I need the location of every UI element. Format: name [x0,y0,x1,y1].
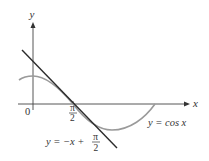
tangent-label: y = −x + π 2 [45,131,100,153]
pi-half-denominator: 2 [70,113,75,123]
origin-label: 0 [25,106,30,117]
cosine-label: y = cos x [147,117,187,128]
x-axis [18,102,190,107]
tangent-label-numerator: π [93,131,98,142]
tangent-label-prefix: y = −x + [45,136,84,147]
tangent-label-denominator: 2 [94,143,99,153]
cosine-curve [19,76,155,130]
x-axis-arrow-icon [184,102,190,107]
cosine-tangent-diagram: x y 0 π 2 y = cos x y = −x + π 2 [0,0,209,161]
x-axis-label: x [192,97,198,109]
y-axis-arrow-icon [31,22,36,28]
tangent-line [22,50,117,148]
y-axis [31,22,36,110]
y-axis-label: y [29,8,35,20]
